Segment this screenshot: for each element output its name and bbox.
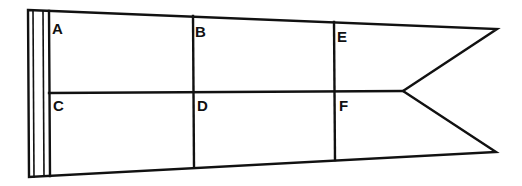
section-label-e: E — [337, 29, 347, 44]
pennant-diagram — [0, 0, 522, 186]
vertical-divider-e-f — [334, 22, 335, 160]
section-label-b: B — [195, 24, 206, 39]
hoist-stripe-2 — [43, 11, 44, 176]
hoist-stripe-1 — [33, 10, 34, 177]
vertical-divider-b-d — [193, 16, 194, 167]
section-label-a: A — [52, 21, 63, 36]
section-label-f: F — [339, 98, 348, 113]
section-label-c: C — [53, 98, 64, 113]
section-label-d: D — [197, 98, 208, 113]
